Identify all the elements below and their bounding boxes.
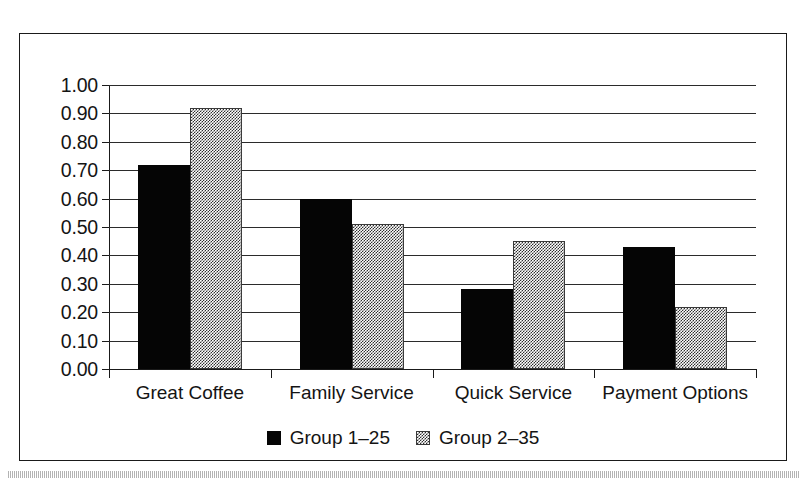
- x-axis-category-label: Family Service: [289, 382, 414, 404]
- bar-group: [594, 85, 756, 369]
- y-tick-label: 0.20: [61, 301, 98, 324]
- bar: [623, 247, 675, 369]
- legend-swatch-icon: [416, 431, 430, 445]
- figure-frame: 0.000.100.200.300.400.500.600.700.800.90…: [19, 33, 787, 461]
- y-tick-mark: [102, 170, 109, 171]
- bar: [352, 224, 404, 369]
- bar-group: [433, 85, 595, 369]
- plot-area: 0.000.100.200.300.400.500.600.700.800.90…: [109, 85, 756, 369]
- bar: [300, 199, 352, 369]
- bar-chart: 0.000.100.200.300.400.500.600.700.800.90…: [20, 34, 786, 460]
- y-tick-label: 0.60: [61, 187, 98, 210]
- legend-label: Group 2–35: [439, 427, 539, 449]
- y-tick-mark: [102, 113, 109, 114]
- y-tick-label: 0.70: [61, 159, 98, 182]
- y-tick-label: 0.80: [61, 130, 98, 153]
- x-tick-mark: [109, 369, 110, 378]
- bar: [513, 241, 565, 369]
- bar-group: [109, 85, 271, 369]
- y-tick-label: 1.00: [61, 74, 98, 97]
- y-tick-mark: [102, 227, 109, 228]
- y-tick-mark: [102, 312, 109, 313]
- y-tick-mark: [102, 142, 109, 143]
- bar: [675, 307, 727, 369]
- y-tick-label: 0.40: [61, 244, 98, 267]
- y-tick-mark: [102, 341, 109, 342]
- y-tick-mark: [102, 85, 109, 86]
- scan-artifact-band: [8, 471, 800, 478]
- x-tick-mark: [271, 369, 272, 378]
- bar: [461, 289, 513, 369]
- legend-entry: Group 2–35: [416, 427, 539, 449]
- chart-legend: Group 1–25Group 2–35: [20, 427, 786, 449]
- y-tick-mark: [102, 255, 109, 256]
- y-tick-label: 0.10: [61, 329, 98, 352]
- x-tick-mark: [756, 369, 757, 378]
- legend-swatch-icon: [267, 431, 281, 445]
- x-axis-category-label: Great Coffee: [136, 382, 244, 404]
- bar: [138, 165, 190, 369]
- y-tick-label: 0.00: [61, 358, 98, 381]
- bars-layer: [109, 85, 756, 369]
- y-tick-mark: [102, 284, 109, 285]
- y-tick-label: 0.50: [61, 216, 98, 239]
- bar: [190, 108, 242, 369]
- bar-group: [271, 85, 433, 369]
- y-tick-label: 0.90: [61, 102, 98, 125]
- y-tick-mark: [102, 199, 109, 200]
- x-tick-mark: [433, 369, 434, 378]
- legend-label: Group 1–25: [290, 427, 390, 449]
- legend-entry: Group 1–25: [267, 427, 390, 449]
- x-axis-category-label: Payment Options: [602, 382, 748, 404]
- x-tick-mark: [594, 369, 595, 378]
- x-axis-category-label: Quick Service: [455, 382, 572, 404]
- y-tick-mark: [102, 369, 109, 370]
- y-tick-label: 0.30: [61, 272, 98, 295]
